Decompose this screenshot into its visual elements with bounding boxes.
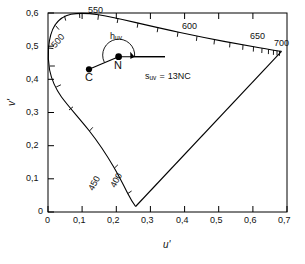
x-axis-label: u' [163,240,170,250]
x-tick-label-7: 0,7 [278,216,291,225]
x-tick-label-0: 0 [45,216,50,225]
x-tick-label-3: 0,3 [141,216,154,225]
hue-angle-subscript: uv [115,34,122,41]
x-tick-label-6: 0,6 [244,216,257,225]
y-tick-label-1: 0,1 [26,174,39,183]
hue-angle-arrowhead [130,52,134,59]
wavelength-label-550: 550 [88,6,103,15]
saturation-subscript: uv [150,74,157,81]
x-tick-label-5: 0,5 [210,216,223,225]
point-label-n: N [114,60,122,71]
spectral-locus-curve [48,13,281,206]
x-tick-label-1: 0,1 [73,216,86,225]
saturation-annotation: suv=13NC [145,72,191,82]
y-tick-label-0: 0 [38,207,43,216]
x-tick-label-2: 0,2 [107,216,120,225]
wavelength-label-650: 650 [250,32,265,41]
locus-wavelength-ticks [48,13,279,194]
y-tick-label-6: 0,6 [26,9,39,18]
y-tick-label-5: 0,5 [26,42,39,51]
hue-angle-annotation: huv [110,32,122,42]
saturation-value: 13NC [168,71,191,81]
y-tick-label-4: 0,4 [26,75,39,84]
point-label-c: C [85,72,93,83]
wavelength-label-600: 600 [182,22,197,31]
x-axis-ticks [48,206,287,212]
chromaticity-figure: 0 0,1 0,2 0,3 0,4 0,5 0,6 0,7 0 0,1 0,2 … [0,0,305,264]
y-tick-label-2: 0,2 [26,141,39,150]
x-tick-label-4: 0,4 [176,216,189,225]
y-axis-label: v' [7,99,17,106]
wavelength-label-700: 700 [274,39,289,48]
y-tick-label-3: 0,3 [26,108,39,117]
plot-frame [48,13,287,212]
saturation-equals: = [159,71,164,81]
